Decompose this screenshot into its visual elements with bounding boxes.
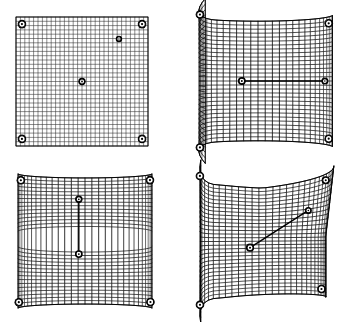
handle-node-start[interactable] <box>75 196 82 203</box>
handle-node-end[interactable] <box>305 207 312 214</box>
corner-node-top-right[interactable] <box>138 20 147 29</box>
handle-node-start[interactable] <box>238 77 246 85</box>
aux-control-point[interactable] <box>116 36 122 42</box>
mesh-deformation-figure <box>0 0 347 322</box>
corner-node-bottom-left[interactable] <box>15 298 24 307</box>
corner-node-top-left[interactable] <box>18 20 27 29</box>
corner-node-bottom-left[interactable] <box>18 135 27 144</box>
corner-node-top-right[interactable] <box>322 176 330 184</box>
corner-node-bottom-right[interactable] <box>138 135 147 144</box>
corner-node-top-right[interactable] <box>324 19 333 28</box>
handle-node-end[interactable] <box>75 250 83 258</box>
handle-node-start[interactable] <box>246 244 254 252</box>
corner-node-bottom-right[interactable] <box>324 134 333 143</box>
corner-node-bottom-right[interactable] <box>317 285 326 294</box>
panel-saddle-corner-fold <box>182 170 334 313</box>
panel-vertical-ridge-fold <box>16 174 154 308</box>
handle-node-end[interactable] <box>321 78 328 85</box>
corner-node-top-left[interactable] <box>17 176 26 185</box>
panel-flat-grid <box>14 15 150 148</box>
center-control-point[interactable] <box>78 78 85 85</box>
corner-node-bottom-right[interactable] <box>146 298 155 307</box>
corner-node-bottom-left[interactable] <box>196 143 205 152</box>
panel-cylindrical-bend <box>188 14 328 148</box>
corner-node-bottom-left[interactable] <box>196 301 205 310</box>
corner-node-top-left[interactable] <box>196 172 205 181</box>
corner-node-top-left[interactable] <box>196 10 205 19</box>
mesh-grid-lines <box>18 174 152 308</box>
corner-node-top-right[interactable] <box>146 176 155 185</box>
